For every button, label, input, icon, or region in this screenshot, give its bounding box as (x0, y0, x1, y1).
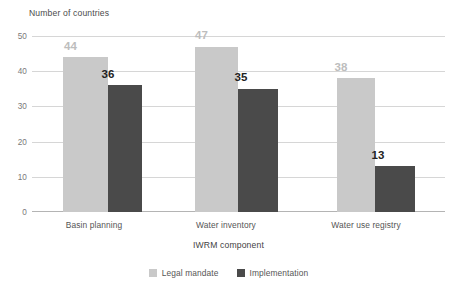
data-label-implementation-water-inventory: 35 (221, 71, 261, 83)
y-tick-20: 20 (5, 137, 27, 146)
bar-legal-mandate-water-use-registry[interactable] (337, 78, 375, 212)
data-label-implementation-basin-planning: 36 (91, 68, 125, 80)
x-category-label-water-inventory: Water inventory (165, 220, 287, 230)
y-tick-10: 10 (5, 172, 27, 181)
x-category-label-basin-planning: Basin planning (33, 220, 155, 230)
legend-label-implementation: Implementation (250, 268, 309, 278)
y-tick-40: 40 (5, 67, 27, 76)
legend-swatch-icon-legal-mandate (149, 269, 157, 277)
bar-implementation-water-inventory[interactable] (238, 89, 278, 212)
data-label-legal-mandate-water-inventory: 47 (180, 29, 223, 41)
bar-chart: Number of countries 50 40 30 20 10 0 44 … (0, 0, 457, 300)
bar-legal-mandate-basin-planning[interactable] (63, 57, 108, 212)
bar-implementation-water-use-registry[interactable] (375, 166, 415, 212)
data-label-legal-mandate-basin-planning: 44 (48, 40, 93, 52)
y-tick-0: 0 (5, 208, 27, 217)
bar-implementation-basin-planning[interactable] (108, 85, 142, 212)
y-axis-title: Number of countries (29, 8, 109, 18)
x-category-label-water-use-registry: Water use registry (305, 220, 427, 230)
legend-item-legal-mandate[interactable]: Legal mandate (149, 268, 219, 278)
y-tick-50: 50 (5, 32, 27, 41)
gridline-50 (32, 36, 445, 37)
legend-swatch-icon-implementation (237, 269, 245, 277)
y-tick-30: 30 (5, 102, 27, 111)
x-axis-title: IWRM component (0, 240, 457, 250)
legend-label-legal-mandate: Legal mandate (162, 268, 219, 278)
legend-item-implementation[interactable]: Implementation (237, 268, 309, 278)
data-label-implementation-water-use-registry: 13 (358, 149, 398, 161)
chart-legend: Legal mandate Implementation (0, 268, 457, 278)
data-label-legal-mandate-water-use-registry: 38 (322, 61, 360, 73)
plot-area (32, 36, 445, 212)
y-axis-tick-labels: 50 40 30 20 10 0 (0, 36, 27, 212)
